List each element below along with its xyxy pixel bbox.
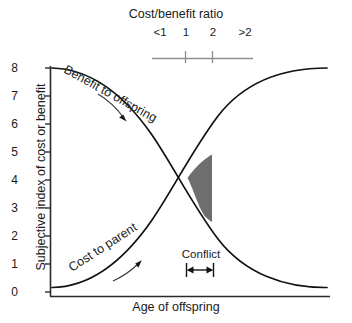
conflict-arrowhead-right [207, 267, 214, 274]
y-axis-ticks [45, 68, 50, 292]
cost-pointer-arrow [113, 260, 142, 281]
ratio-axis [152, 51, 253, 63]
benefit-curve-label: Benefit to offspring [62, 62, 160, 125]
conflict-arrow [187, 263, 214, 277]
conflict-arrowhead-left [187, 267, 194, 274]
cost-curve-label: Cost to parent [66, 220, 140, 275]
figure-container: Cost/benefit ratio <1 1 2 >2 Subjective … [0, 0, 352, 323]
plot-svg: Benefit to offspring Cost to parent [0, 0, 352, 323]
